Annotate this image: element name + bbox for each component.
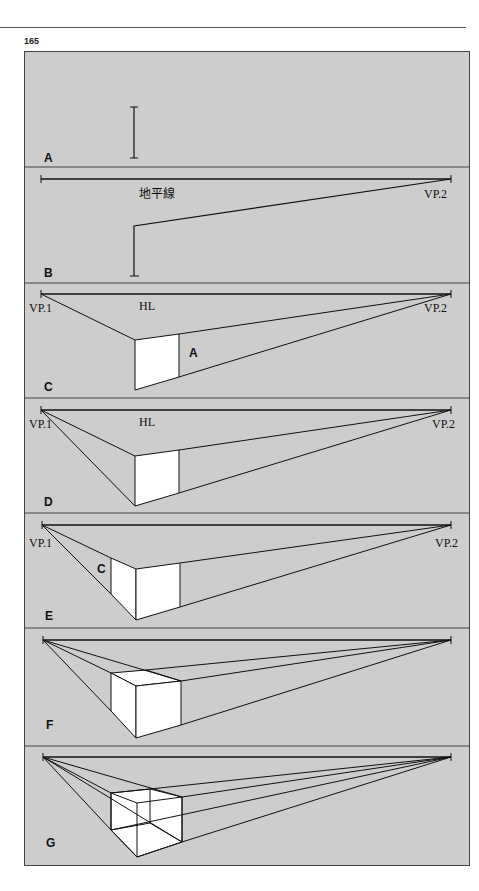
panel-c bbox=[41, 290, 451, 390]
hl-label: HL bbox=[139, 299, 155, 313]
horizon-label: 地平線 bbox=[139, 186, 175, 201]
panel-label-b: B bbox=[44, 266, 53, 280]
panel-label-c: C bbox=[44, 380, 53, 394]
panel-d bbox=[41, 406, 451, 506]
panel-label-e: E bbox=[45, 609, 53, 623]
vp2-label: VP.2 bbox=[432, 417, 455, 431]
panel-b bbox=[41, 175, 451, 276]
panel-label-g: G bbox=[46, 836, 55, 850]
vp1-label: VP.1 bbox=[29, 417, 52, 431]
face-label-c: C bbox=[97, 562, 106, 576]
panel-label-f: F bbox=[46, 718, 53, 732]
vp2-label: VP.2 bbox=[435, 536, 458, 550]
vp2-label: VP.2 bbox=[424, 187, 447, 201]
vp2-label: VP.2 bbox=[424, 301, 447, 315]
panel-f bbox=[43, 636, 451, 738]
hl-label: HL bbox=[139, 415, 155, 429]
vp1-label: VP.1 bbox=[29, 301, 52, 315]
vp1-label: VP.1 bbox=[29, 536, 52, 550]
perspective-steps-diagram: A 地平線 VP.2 B VP.1 HL VP.2 A C VP.1 HL VP… bbox=[0, 0, 479, 891]
panel-a bbox=[130, 107, 138, 158]
face-label-a: A bbox=[189, 346, 198, 360]
panel-label-d: D bbox=[44, 495, 53, 509]
panel-g bbox=[43, 753, 451, 857]
panel-label-a: A bbox=[44, 151, 53, 165]
